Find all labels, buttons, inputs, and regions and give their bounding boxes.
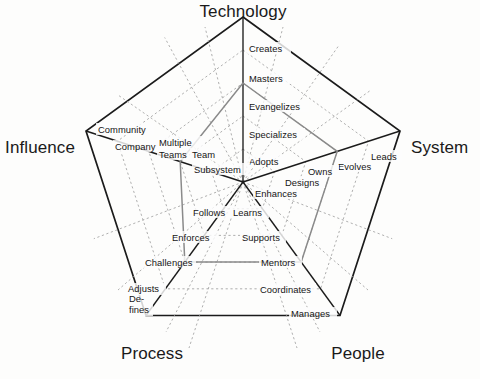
tick-people-mentors: Mentors	[261, 257, 295, 268]
tick-influence-multiple: Multiple	[159, 137, 192, 148]
radar-chart-svg: Creates Masters Evangelizes Specializes …	[0, 0, 480, 379]
tick-people-coordinates: Coordinates	[260, 284, 311, 295]
tick-technology-creates: Creates	[249, 43, 282, 54]
tick-group-influence: Community Company Multiple Teams Team Su…	[96, 123, 250, 175]
tick-influence-teams: Teams	[159, 149, 187, 160]
tick-system-designs: Designs	[285, 177, 319, 188]
axis-title-people: People	[331, 344, 385, 363]
axis-title-process: Process	[121, 344, 183, 363]
tick-process-follows: Follows	[193, 207, 225, 218]
radar-chart-container: Creates Masters Evangelizes Specializes …	[0, 0, 480, 379]
tick-technology-adopts: Adopts	[249, 156, 279, 167]
tick-people-manages: Manages	[291, 308, 330, 319]
tick-influence-company: Company	[115, 141, 156, 152]
axis-spoke-people	[243, 182, 340, 316]
tick-people-learns: Learns	[233, 207, 262, 218]
tick-technology-masters: Masters	[249, 73, 283, 84]
tick-influence-team: Team	[192, 149, 215, 160]
tick-process-challenges: Challenges	[145, 257, 193, 268]
tick-system-owns: Owns	[308, 166, 332, 177]
tick-people-supports: Supports	[242, 232, 280, 243]
tick-process-adjusts: Adjusts	[128, 283, 159, 294]
tick-group-technology: Creates Masters Evangelizes Specializes …	[247, 42, 309, 167]
tick-influence-subsystem: Subsystem	[194, 164, 241, 175]
tick-process-defines-line2: fines	[129, 304, 149, 315]
axis-title-influence: Influence	[5, 138, 75, 157]
axis-title-system: System	[411, 138, 468, 157]
tick-technology-specializes: Specializes	[249, 129, 297, 140]
tick-system-evolves: Evolves	[338, 161, 371, 172]
tick-technology-evangelizes: Evangelizes	[249, 101, 300, 112]
tick-influence-community: Community	[98, 124, 146, 135]
axis-titles: Technology System People Process Influen…	[5, 2, 468, 363]
tick-process-enforces: Enforces	[172, 232, 210, 243]
axis-title-technology: Technology	[199, 2, 286, 21]
axis-spoke-process	[146, 182, 243, 316]
tick-system-enhances: Enhances	[255, 188, 297, 199]
